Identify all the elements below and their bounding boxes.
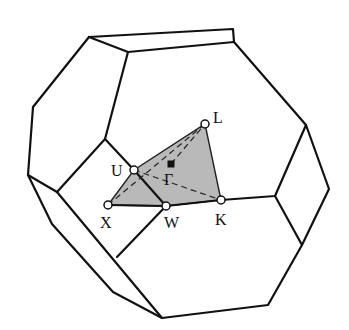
label-w: W bbox=[164, 215, 179, 231]
label-u: U bbox=[111, 163, 123, 179]
label-k: K bbox=[215, 212, 227, 228]
label-l: L bbox=[213, 110, 223, 126]
label-gamma: Γ bbox=[164, 172, 173, 188]
point-k-marker bbox=[217, 196, 225, 204]
lower-left-diagonal-edge bbox=[57, 192, 162, 318]
right-square-edge bbox=[275, 196, 302, 245]
xw-edge bbox=[108, 205, 166, 206]
brillouin-zone-diagram: L U Γ X W K bbox=[0, 0, 349, 330]
label-x: X bbox=[100, 215, 112, 231]
point-u-marker bbox=[130, 166, 138, 174]
w-lower-edge bbox=[117, 206, 166, 257]
point-w-marker bbox=[162, 202, 170, 210]
point-gamma-marker bbox=[168, 161, 175, 168]
polyhedron-drawing bbox=[0, 0, 349, 330]
point-x-marker bbox=[104, 201, 112, 209]
top-face-edges bbox=[89, 37, 234, 52]
point-l-marker bbox=[201, 120, 209, 128]
